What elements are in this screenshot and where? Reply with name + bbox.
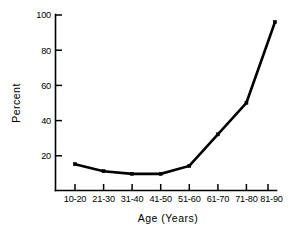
y-tick-label-80: 80 [41,46,51,56]
x-tick-label-31-40: 31-40 [121,194,144,204]
y-tick-label-100: 100 [36,10,51,20]
y-tick-labels: 100 80 60 40 20 [36,10,51,161]
data-point-81-90 [273,21,276,24]
x-tick-label-61-70: 61-70 [207,194,230,204]
data-series-line [75,22,275,174]
x-tick-labels: 10-20 21-30 31-40 41-50 51-60 61-70 71-8… [64,194,283,204]
x-tick-label-10-20: 10-20 [64,194,87,204]
x-tick-marks [75,184,268,191]
x-tick-label-51-60: 51-60 [178,194,201,204]
x-tick-label-81-90: 81-90 [260,194,283,204]
data-point-10-20 [74,163,77,166]
x-tick-label-21-30: 21-30 [92,194,115,204]
x-tick-label-41-50: 41-50 [149,194,172,204]
data-point-71-80 [245,101,248,104]
x-tick-label-71-80: 71-80 [235,194,258,204]
data-point-21-30 [102,170,105,173]
x-axis-title: Age (Years) [138,212,199,224]
y-tick-label-60: 60 [41,81,51,91]
y-tick-marks [56,15,63,156]
y-tick-label-20: 20 [41,151,51,161]
data-point-51-60 [188,164,191,167]
data-point-41-50 [159,172,162,175]
data-point-61-70 [216,133,219,136]
chart-container: 100 80 60 40 20 10-20 21-30 31-40 41-50 … [0,0,292,239]
data-point-31-40 [131,172,134,175]
data-point-markers [74,21,277,176]
line-chart: 100 80 60 40 20 10-20 21-30 31-40 41-50 … [0,0,292,239]
y-axis-title: Percent [10,83,22,123]
y-tick-label-40: 40 [41,116,51,126]
